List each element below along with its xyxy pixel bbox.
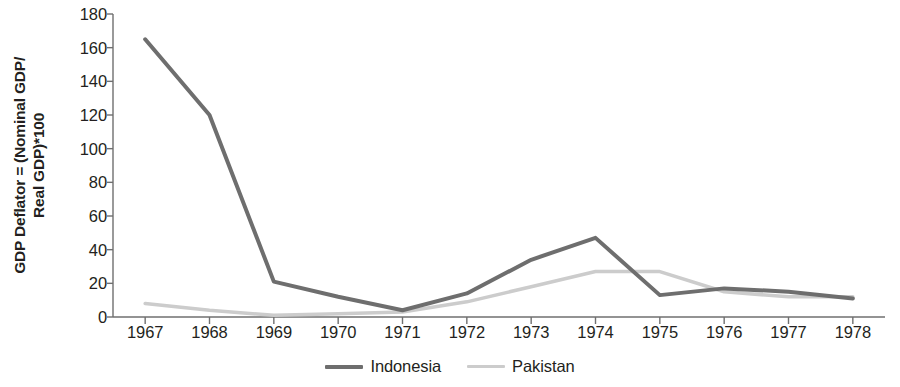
legend-item-indonesia[interactable]: Indonesia	[325, 357, 441, 376]
legend-swatch-pakistan	[467, 365, 505, 368]
legend-item-pakistan[interactable]: Pakistan	[467, 357, 575, 376]
x-axis-tick-label: 1970	[320, 323, 356, 342]
x-axis-tick-label: 1973	[513, 323, 549, 342]
gdp-deflator-line-chart: GDP Deflator = (Nominal GDP/ Real GDP)*1…	[0, 0, 900, 387]
y-axis-title-line-1: GDP Deflator = (Nominal GDP/	[10, 57, 29, 274]
x-axis-tick-label: 1975	[642, 323, 678, 342]
y-axis-title-line-2: Real GDP)*100	[29, 57, 48, 274]
x-axis-tick-label: 1968	[191, 323, 227, 342]
x-axis-tick-label: 1974	[577, 323, 613, 342]
series-line-indonesia	[145, 39, 853, 310]
y-axis-tick-label: 20	[59, 274, 107, 293]
y-axis-tick-labels: 020406080100120140160180	[57, 14, 107, 317]
y-axis-tick-label: 60	[59, 207, 107, 226]
y-axis-tick-label: 80	[59, 173, 107, 192]
y-axis-title: GDP Deflator = (Nominal GDP/ Real GDP)*1…	[0, 0, 58, 330]
legend-label: Pakistan	[512, 357, 575, 376]
chart-legend: IndonesiaPakistan	[0, 357, 900, 376]
y-axis-tick-label: 40	[59, 240, 107, 259]
x-axis-tick-label: 1967	[127, 323, 163, 342]
y-axis-tick-label: 120	[59, 106, 107, 125]
x-axis-tick-label: 1969	[256, 323, 292, 342]
x-axis-tick-label: 1976	[706, 323, 742, 342]
x-axis-tick-label: 1977	[770, 323, 806, 342]
legend-swatch-indonesia	[325, 365, 363, 369]
y-axis-tick-label: 0	[59, 308, 107, 327]
x-axis-tick-label: 1972	[449, 323, 485, 342]
plot-area	[113, 14, 885, 317]
y-axis-tick-label: 100	[59, 139, 107, 158]
plot-svg	[113, 14, 885, 317]
y-axis-tick-label: 180	[59, 5, 107, 24]
y-axis-tick-label: 140	[59, 72, 107, 91]
x-axis-tick-labels: 1967196819691970197119721973197419751976…	[113, 323, 885, 353]
legend-label: Indonesia	[370, 357, 441, 376]
x-axis-tick-label: 1978	[835, 323, 871, 342]
x-axis-tick-label: 1971	[384, 323, 420, 342]
y-axis-tick-label: 160	[59, 38, 107, 57]
